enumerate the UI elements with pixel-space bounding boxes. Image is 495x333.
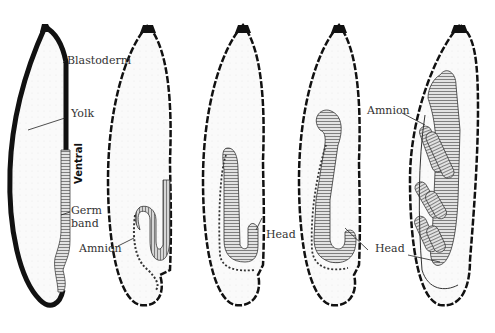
label-head-stage4: Head (375, 243, 405, 255)
label-yolk: Yolk (71, 108, 94, 120)
label-germ: Germ (71, 205, 102, 217)
label-amnion-stage2: Amnion (79, 243, 122, 255)
stage-2-egg (108, 25, 171, 305)
stage-5-egg (402, 25, 478, 305)
stage-1-egg (10, 24, 70, 305)
embryo-development-diagram: Blastoderm Yolk Ventral Germ band Amnion… (0, 0, 495, 333)
label-head-stage3: Head (266, 229, 296, 241)
stage-4-egg (299, 25, 368, 305)
label-blastoderm: Blastoderm (67, 55, 131, 67)
label-band: band (71, 218, 99, 230)
label-ventral: Ventral (73, 143, 84, 184)
label-amnion-stage5: Amnion (367, 105, 410, 117)
stage-3-egg (203, 25, 264, 305)
